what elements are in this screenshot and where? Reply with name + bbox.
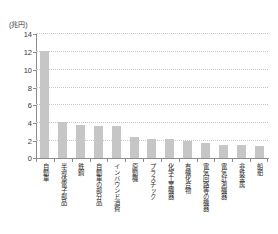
x-label-cell: 自動車の部分品 — [90, 163, 108, 229]
x-axis-category-label: プラスチック — [149, 163, 156, 199]
bar-slot — [54, 33, 72, 158]
bar-series — [36, 33, 268, 158]
x-tick-mark — [107, 158, 125, 162]
x-axis-category-label: 有機化合物 — [184, 163, 191, 193]
bar — [40, 51, 49, 158]
y-tick-label: 8 — [28, 83, 32, 92]
bar-slot — [214, 33, 232, 158]
x-label-cell: 半導体電子部品 — [54, 163, 72, 229]
bar — [147, 139, 156, 158]
bar-slot — [90, 33, 108, 158]
bar-slot — [36, 33, 54, 158]
x-label-cell: 化学工業機器 — [161, 163, 179, 229]
x-label-cell: 自動車 — [36, 163, 54, 229]
y-tick-label: 0 — [28, 154, 32, 163]
x-tick-mark — [90, 158, 108, 162]
x-tick-mark — [125, 158, 143, 162]
x-axis-category-label: インバウンド消費 — [113, 163, 120, 211]
x-axis-labels: 自動車半導体電子部品鉄鋼自動車の部分品インバウンド消費原動機プラスチック化学工業… — [36, 163, 268, 229]
x-tick-mark — [214, 158, 232, 162]
bar-slot — [125, 33, 143, 158]
x-axis-category-label: 非鉄金属 — [238, 163, 245, 187]
bar-slot — [161, 33, 179, 158]
x-tick-mark — [179, 158, 197, 162]
y-tick-label: 4 — [28, 119, 32, 128]
y-axis-unit-label: (兆円) — [9, 19, 28, 29]
bar — [112, 126, 121, 158]
x-label-cell: 電気回路等の機器 — [197, 163, 215, 229]
bar — [165, 139, 174, 158]
x-tick-mark — [197, 158, 215, 162]
x-label-cell: 鉄鋼 — [72, 163, 90, 229]
y-tick-label: 2 — [28, 137, 32, 146]
x-tick-mark — [161, 158, 179, 162]
x-tick-mark — [143, 158, 161, 162]
x-tick-marks — [36, 158, 268, 162]
bar-slot — [143, 33, 161, 158]
x-label-cell: インバウンド消費 — [107, 163, 125, 229]
x-label-cell: 非鉄金属 — [232, 163, 250, 229]
x-tick-mark — [72, 158, 90, 162]
bar-slot — [72, 33, 90, 158]
x-axis-category-label: 原動機 — [131, 163, 138, 181]
y-tick-label: 12 — [24, 47, 32, 56]
x-tick-mark — [250, 158, 268, 162]
x-axis-category-label: 半導体電子部品 — [59, 163, 66, 205]
bar — [94, 126, 103, 158]
x-tick-mark — [36, 158, 54, 162]
bar-slot — [232, 33, 250, 158]
bar-slot — [197, 33, 215, 158]
x-axis-category-label: 化学工業機器 — [167, 163, 174, 199]
x-tick-mark — [54, 158, 72, 162]
bar — [201, 143, 210, 158]
x-label-cell: プラスチック — [143, 163, 161, 229]
bar — [58, 122, 67, 158]
x-axis-category-label: 船舶 — [256, 163, 263, 175]
x-axis-category-label: 自動車 — [42, 163, 49, 181]
y-tick-label: 6 — [28, 101, 32, 110]
bar — [183, 141, 192, 158]
x-axis-category-label: 自動車の部分品 — [95, 163, 102, 205]
bar-chart: (兆円) 02468101214 自動車半導体電子部品鉄鋼自動車の部分品インバウ… — [0, 0, 278, 234]
x-label-cell: 有機化合物 — [179, 163, 197, 229]
x-axis-category-label: 電気計測機器 — [220, 163, 227, 199]
bar — [237, 145, 246, 158]
bar-slot — [107, 33, 125, 158]
plot-area: 02468101214 — [36, 33, 268, 158]
x-label-cell: 電気計測機器 — [214, 163, 232, 229]
x-axis-category-label: 電気回路等の機器 — [202, 163, 209, 211]
bar — [255, 146, 264, 158]
bar — [130, 137, 139, 158]
x-tick-mark — [232, 158, 250, 162]
y-tick-label: 10 — [24, 65, 32, 74]
bar-slot — [179, 33, 197, 158]
bar — [219, 145, 228, 158]
x-label-cell: 原動機 — [125, 163, 143, 229]
bar — [76, 125, 85, 158]
x-axis-category-label: 鉄鋼 — [77, 163, 84, 175]
bar-slot — [250, 33, 268, 158]
x-label-cell: 船舶 — [250, 163, 268, 229]
y-tick-label: 14 — [24, 30, 32, 39]
